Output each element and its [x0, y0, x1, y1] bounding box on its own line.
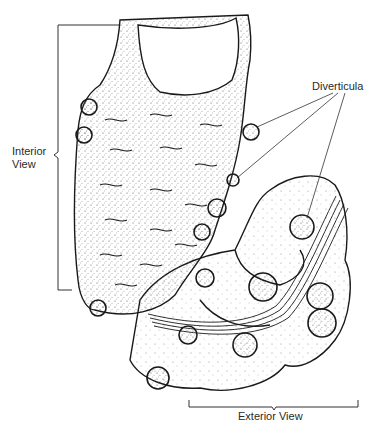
exterior-view-bracket	[189, 400, 358, 410]
interior-label-line2: View	[12, 158, 46, 171]
interior-view-label: Interior View	[12, 145, 46, 171]
colon-diverticula-illustration	[0, 0, 378, 435]
exterior-view-label: Exterior View	[238, 410, 303, 423]
figure-caption-cutoff	[60, 428, 360, 435]
interior-label-line1: Interior	[12, 145, 46, 158]
diverticula-label: Diverticula	[312, 80, 363, 93]
